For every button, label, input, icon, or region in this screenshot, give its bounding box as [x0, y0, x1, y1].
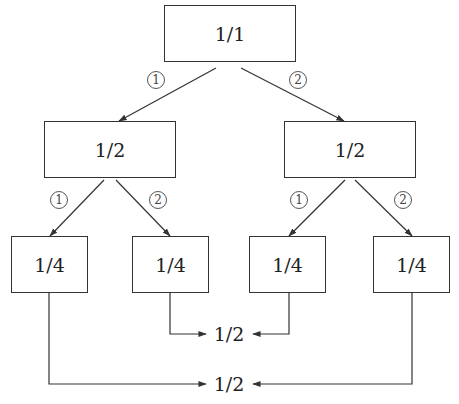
- merge-inner-left: [170, 293, 206, 334]
- node-level2-2: 1/4: [132, 236, 209, 293]
- merge-outer-right: [253, 293, 412, 384]
- node-level2-3-value: 1/4: [272, 254, 303, 276]
- node-level1-right: 1/2: [284, 121, 416, 178]
- node-level2-2-value: 1/4: [155, 254, 186, 276]
- node-level2-4-value: 1/4: [396, 254, 427, 276]
- node-level2-4: 1/4: [373, 236, 450, 293]
- edge-label-l2-1: 1: [50, 191, 68, 209]
- edge-label-l2-2: 2: [149, 191, 167, 209]
- node-level1-right-value: 1/2: [335, 139, 366, 161]
- merge-inner-right: [253, 293, 289, 334]
- node-level1-left-value: 1/2: [95, 139, 126, 161]
- edge-label-root-left: 1: [147, 71, 165, 89]
- node-level2-3: 1/4: [249, 236, 326, 293]
- node-level2-1-value: 1/4: [34, 254, 65, 276]
- merge-outer-left: [49, 293, 206, 384]
- node-root: 1/1: [164, 5, 296, 62]
- edge-label-root-right: 2: [289, 71, 307, 89]
- edge-label-l2-4: 2: [394, 191, 412, 209]
- node-root-value: 1/1: [215, 23, 246, 45]
- merge-result-inner: 1/2: [214, 323, 245, 345]
- edge-root-to-left: [119, 68, 216, 121]
- node-level2-1: 1/4: [11, 236, 88, 293]
- edge-label-l2-3: 1: [290, 191, 308, 209]
- node-level1-left: 1/2: [44, 121, 176, 178]
- merge-result-outer: 1/2: [214, 373, 245, 395]
